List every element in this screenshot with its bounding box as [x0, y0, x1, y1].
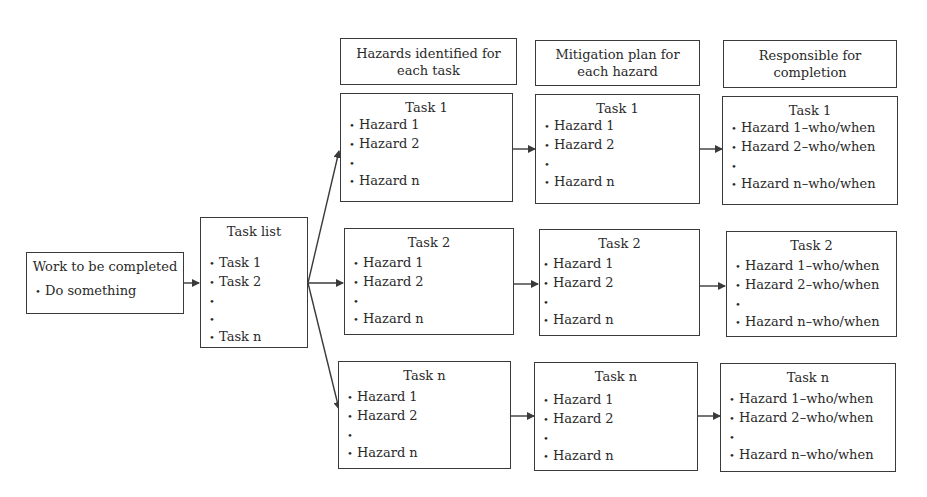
hazard-item: • — [349, 154, 512, 172]
work-title: Work to be completed — [27, 258, 183, 275]
row2-mitigation-box: Task 2 •Hazard 1 •Hazard 2 • •Hazard n — [539, 229, 700, 336]
responsible-item: •Hazard 2–who/when — [731, 138, 897, 157]
mitigation-item: •Hazard n — [543, 447, 697, 466]
row2-mitigation-title: Task 2 — [540, 235, 699, 252]
responsible-item: •Hazard 1–who/when — [729, 390, 895, 409]
hazard-item: •Hazard 1 — [347, 388, 510, 407]
row3-responsible-box: Task n •Hazard 1–who/when •Hazard 2–who/… — [720, 363, 896, 472]
row1-hazards-title: Task 1 — [341, 99, 512, 116]
row1-hazards-box: Task 1 •Hazard 1 •Hazard 2 • •Hazard n — [340, 93, 513, 202]
work-item: •Do something — [35, 282, 183, 301]
row3-hazards-box: Task n •Hazard 1 •Hazard 2 • •Hazard n — [338, 361, 511, 469]
responsible-item: •Hazard 2–who/when — [729, 409, 895, 428]
row1-mitigation-box: Task 1 •Hazard 1 •Hazard 2 • •Hazard n — [535, 94, 700, 204]
row1-responsible-box: Task 1 •Hazard 1–who/when •Hazard 2–who/… — [722, 96, 898, 205]
task-list-title: Task list — [201, 223, 307, 240]
row3-hazards-title: Task n — [339, 367, 510, 384]
arrow-tasklist-to-taskn — [308, 283, 339, 409]
task-list-item: • — [209, 310, 307, 328]
hazard-item: •Hazard 2 — [349, 135, 512, 154]
responsible-item: • — [729, 428, 895, 446]
mitigation-item: • — [543, 429, 697, 447]
row3-mitigation-title: Task n — [535, 368, 697, 385]
hazard-item: •Hazard 1 — [353, 254, 513, 273]
hazard-item: •Hazard 2 — [353, 273, 513, 292]
mitigation-item: •Hazard n — [544, 173, 699, 192]
mitigation-item: •Hazard 2 — [543, 274, 699, 293]
row3-responsible-title: Task n — [721, 369, 895, 386]
hazard-item: •Hazard n — [353, 310, 513, 329]
header-mitigation: Mitigation plan for each hazard — [535, 40, 700, 86]
mitigation-item: • — [543, 293, 699, 311]
row2-responsible-title: Task 2 — [727, 237, 896, 254]
hazard-item: •Hazard n — [347, 444, 510, 463]
task-list-item: •Task 2 — [209, 273, 307, 292]
hazard-item: •Hazard 1 — [349, 116, 512, 135]
task-list-item: • — [209, 292, 307, 310]
mitigation-item: •Hazard 1 — [544, 117, 699, 136]
row3-mitigation-box: Task n •Hazard 1 •Hazard 2 • •Hazard n — [534, 362, 698, 471]
hazard-item: • — [353, 292, 513, 310]
arrow-tasklist-to-task1 — [308, 151, 339, 283]
hazard-item: •Hazard 2 — [347, 407, 510, 426]
work-box: Work to be completed •Do something — [26, 252, 184, 314]
mitigation-item: •Hazard n — [543, 311, 699, 330]
header-responsible: Responsible for completion — [723, 40, 897, 88]
mitigation-item: •Hazard 2 — [543, 410, 697, 429]
responsible-item: •Hazard 1–who/when — [731, 119, 897, 138]
hazard-item: • — [347, 426, 510, 444]
row2-hazards-title: Task 2 — [345, 234, 513, 251]
hazard-item: •Hazard n — [349, 172, 512, 191]
responsible-item: •Hazard 1–who/when — [735, 257, 896, 276]
task-list-item: •Task n — [209, 328, 307, 347]
row1-responsible-title: Task 1 — [723, 102, 897, 119]
mitigation-item: •Hazard 1 — [543, 255, 699, 274]
responsible-item: •Hazard 2–who/when — [735, 276, 896, 295]
responsible-item: •Hazard n–who/when — [729, 446, 895, 465]
header-hazards: Hazards identified for each task — [340, 38, 517, 85]
mitigation-item: • — [544, 155, 699, 173]
responsible-item: • — [731, 157, 897, 175]
task-list-box: Task list •Task 1 •Task 2 • • •Task n — [200, 217, 308, 348]
row1-mitigation-title: Task 1 — [536, 100, 699, 117]
task-list-item: •Task 1 — [209, 254, 307, 273]
row2-hazards-box: Task 2 •Hazard 1 •Hazard 2 • •Hazard n — [344, 228, 514, 335]
responsible-item: •Hazard n–who/when — [731, 175, 897, 194]
mitigation-item: •Hazard 1 — [543, 391, 697, 410]
row2-responsible-box: Task 2 •Hazard 1–who/when •Hazard 2–who/… — [726, 231, 897, 337]
responsible-item: •Hazard n–who/when — [735, 313, 896, 332]
responsible-item: • — [735, 295, 896, 313]
mitigation-item: •Hazard 2 — [544, 136, 699, 155]
